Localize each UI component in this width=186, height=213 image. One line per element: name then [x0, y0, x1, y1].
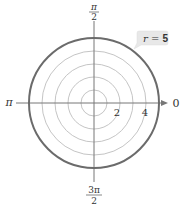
angle-label-bottom-den: 2: [91, 196, 97, 206]
arrow-right-icon: [161, 100, 168, 106]
equation-label: r = 5: [143, 33, 169, 44]
angle-label-3pi-over-2: 3π 2: [86, 185, 102, 206]
radial-label-4: 4: [142, 107, 148, 118]
polar-chart: r = 5 2 4 0 π π 2 3π 2: [0, 0, 186, 213]
angle-label-top-num: π: [90, 2, 98, 12]
angle-label-bottom-num: 3π: [88, 185, 100, 195]
equation-callout: r = 5: [134, 31, 169, 49]
equation-value: 5: [163, 33, 169, 44]
angle-label-pi: π: [4, 96, 13, 109]
angle-label-pi-over-2: π 2: [89, 2, 99, 22]
angle-label-0: 0: [173, 97, 180, 110]
equation-eq: =: [148, 33, 163, 44]
radial-label-2: 2: [114, 107, 120, 118]
angle-label-top-den: 2: [91, 12, 97, 22]
